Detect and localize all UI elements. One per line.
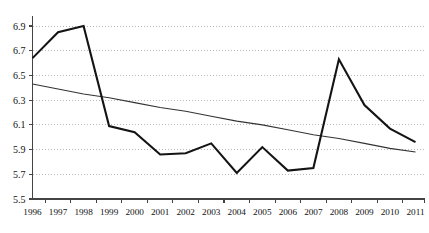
x-axis [33, 199, 425, 203]
chart-container: 5.55.75.96.16.36.56.76.9 199619971998199… [0, 0, 429, 233]
data-series-path [33, 26, 416, 173]
x-tick-label: 2010 [381, 207, 400, 217]
x-tick-label: 1997 [49, 207, 68, 217]
x-tick-label: 2008 [330, 207, 349, 217]
gridlines [33, 26, 425, 174]
x-tick-label: 1998 [74, 207, 93, 217]
x-tick-label: 2005 [253, 207, 272, 217]
y-tick-label: 5.7 [13, 169, 26, 180]
y-tick-label: 6.5 [13, 70, 26, 81]
y-tick-label: 5.5 [13, 194, 26, 205]
x-tick-label: 2004 [228, 207, 247, 217]
y-tick-labels: 5.55.75.96.16.36.56.76.9 [13, 21, 26, 205]
x-tick-label: 2009 [355, 207, 374, 217]
x-tick-label: 2007 [304, 207, 323, 217]
x-tick-label: 2002 [177, 207, 196, 217]
x-tick-label: 2011 [406, 207, 424, 217]
x-tick-label: 1999 [100, 207, 119, 217]
data-series-line [33, 26, 416, 173]
x-tick-label: 2003 [202, 207, 221, 217]
y-axis [29, 16, 33, 199]
x-tick-label: 1996 [23, 207, 42, 217]
x-tick-label: 2006 [279, 207, 298, 217]
y-tick-label: 6.1 [13, 119, 26, 130]
y-tick-label: 6.7 [13, 45, 26, 56]
x-tick-labels: 1996199719981999200020012002200320042005… [23, 207, 425, 217]
y-tick-label: 6.3 [13, 95, 26, 106]
x-tick-label: 2000 [125, 207, 144, 217]
x-tick-label: 2001 [151, 207, 170, 217]
y-tick-label: 5.9 [13, 144, 26, 155]
y-tick-label: 6.9 [13, 21, 26, 32]
line-chart: 5.55.75.96.16.36.56.76.9 199619971998199… [0, 0, 429, 233]
